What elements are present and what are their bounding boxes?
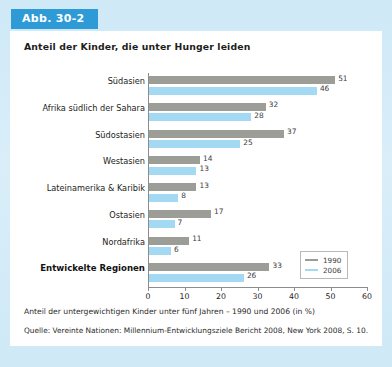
chart-title: Anteil der Kinder, die unter Hunger leid… [24,41,250,52]
x-tick [258,287,259,291]
category-label: Südasien [23,77,145,86]
bar-2006: 13 [149,167,196,175]
x-tick [331,287,332,291]
bar-value-label: 14 [203,154,212,163]
x-tick [221,287,222,291]
legend-swatch-icon [305,269,318,271]
x-tick-label: 0 [146,292,151,301]
bar-value-label: 32 [269,100,278,109]
x-tick [294,287,295,291]
x-tick-label: 30 [253,292,263,301]
bar-value-label: 8 [181,191,186,200]
x-axis-ticks: 0102030405060 [148,287,368,299]
bar-2006: 26 [149,274,244,282]
bar-group: 138 [149,182,368,205]
bar-value-label: 6 [174,245,179,254]
x-tick-label: 40 [289,292,299,301]
bar-group: 3228 [149,102,368,125]
bar-row: Südostasien3725 [24,127,368,154]
chart-panel: Anteil der Kinder, die unter Hunger leid… [10,31,382,346]
figure-container: Abb. 30-2 Anteil der Kinder, die unter H… [0,0,392,367]
bar-2006: 6 [149,247,171,255]
category-label: Westasien [23,157,145,166]
bar-value-label: 37 [287,127,296,136]
bar-value-label: 26 [247,271,256,280]
bar-value-label: 33 [272,261,281,270]
category-label: Lateinamerika & Karibik [23,184,145,193]
category-label: Entwickelte Regionen [23,264,145,273]
bar-1990: 13 [149,183,196,191]
x-tick [367,287,368,291]
chart-legend: 19902006 [300,251,348,279]
x-tick-label: 20 [216,292,226,301]
bar-value-label: 25 [243,138,252,147]
bar-group: 177 [149,209,368,232]
x-tick-label: 10 [180,292,190,301]
bar-group: 5146 [149,75,368,98]
bar-row: Ostasien177 [24,207,368,234]
bar-value-label: 28 [254,111,263,120]
bar-value-label: 13 [199,164,208,173]
bar-1990: 33 [149,263,269,271]
bar-2006: 25 [149,140,240,148]
x-tick-label: 60 [362,292,372,301]
bar-row: Südasien5146 [24,73,368,100]
bar-1990: 11 [149,237,189,245]
bar-group: 3725 [149,129,368,152]
x-tick [185,287,186,291]
bar-2006: 7 [149,220,175,228]
chart-source: Quelle: Vereinte Nationen: Millennium-En… [24,326,368,335]
legend-entry: 2006 [305,265,341,275]
bar-value-label: 17 [214,207,223,216]
bar-row: Afrika südlich der Sahara3228 [24,100,368,127]
bar-1990: 37 [149,130,284,138]
bar-2006: 46 [149,87,317,95]
bar-1990: 51 [149,76,335,84]
bar-value-label: 51 [338,74,347,83]
category-label: Ostasien [23,211,145,220]
bar-2006: 8 [149,194,178,202]
legend-entry: 1990 [305,255,341,265]
bar-row: Westasien1413 [24,153,368,180]
category-label: Südostasien [23,131,145,140]
bar-value-label: 7 [178,218,183,227]
category-label: Nordafrika [23,238,145,247]
bar-1990: 14 [149,156,200,164]
legend-label: 1990 [323,256,341,265]
plot-area: Südasien5146Afrika südlich der Sahara322… [24,67,368,302]
category-label: Afrika südlich der Sahara [23,104,145,113]
x-tick [148,287,149,291]
figure-badge: Abb. 30-2 [11,9,98,29]
x-tick-label: 50 [326,292,336,301]
bar-1990: 32 [149,103,266,111]
legend-label: 2006 [323,266,341,275]
chart-note: Anteil der untergewichtigen Kinder unter… [24,307,315,316]
bar-group: 1413 [149,155,368,178]
bar-value-label: 13 [199,181,208,190]
bar-value-label: 46 [320,84,329,93]
bar-value-label: 11 [192,234,201,243]
bar-1990: 17 [149,210,211,218]
bar-row: Lateinamerika & Karibik138 [24,180,368,207]
bar-2006: 28 [149,113,251,121]
legend-swatch-icon [305,259,318,261]
